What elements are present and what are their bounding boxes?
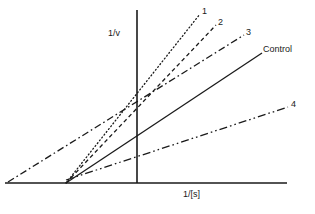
y-axis-label: 1/v [108, 29, 120, 38]
series-label-1: 1 [202, 7, 207, 16]
series-line-4 [66, 107, 288, 180]
series-label-control: Control [263, 45, 292, 54]
series-label-4: 4 [291, 100, 296, 109]
lineweaver-burk-plot: 1/v 1/[s] 1 2 3 Control 4 [0, 0, 315, 214]
series-line-control [66, 53, 262, 183]
plot-canvas [0, 0, 315, 214]
series-line-2 [66, 25, 216, 183]
x-axis-label: 1/[s] [183, 190, 200, 199]
series-label-3: 3 [246, 28, 251, 37]
series-label-2: 2 [218, 18, 223, 27]
series-line-1 [66, 14, 200, 183]
